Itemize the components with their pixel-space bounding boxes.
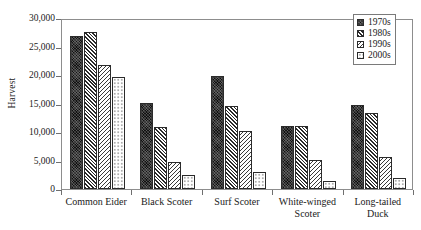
bar-group [70, 20, 125, 189]
legend-item[interactable]: 2000s [357, 50, 391, 61]
bar[interactable] [351, 105, 364, 189]
bar[interactable] [140, 103, 153, 189]
y-tick-label: 30,000 [3, 14, 55, 24]
bar[interactable] [98, 65, 111, 189]
bar[interactable] [365, 113, 378, 189]
bar[interactable] [253, 172, 266, 189]
x-category-label: Surf Scoter [202, 196, 272, 208]
legend-item[interactable]: 1980s [357, 28, 391, 39]
legend-swatch-icon [357, 41, 364, 48]
y-tick-label: 20,000 [3, 71, 55, 81]
y-tick-label: 25,000 [3, 43, 55, 53]
bar[interactable] [239, 131, 252, 189]
legend-item[interactable]: 1970s [357, 17, 391, 28]
legend-label: 2000s [368, 50, 391, 61]
x-tick-mark [131, 190, 132, 195]
legend-swatch-icon [357, 52, 364, 59]
bar[interactable] [154, 127, 167, 189]
bar[interactable] [309, 160, 322, 189]
legend-label: 1970s [368, 17, 391, 28]
bar[interactable] [182, 175, 195, 189]
y-tick-label: 15,000 [3, 100, 55, 110]
y-tick-label: 0 [3, 185, 55, 195]
bar[interactable] [168, 162, 181, 189]
bar[interactable] [379, 157, 392, 189]
legend-item[interactable]: 1990s [357, 39, 391, 50]
bar[interactable] [225, 106, 238, 189]
bar-group [281, 20, 336, 189]
bar-chart-figure: Harvest 05,00010,00015,00020,00025,00030… [0, 0, 421, 230]
bar[interactable] [211, 76, 224, 189]
x-tick-mark [343, 190, 344, 195]
bar[interactable] [84, 32, 97, 189]
x-tick-mark [413, 190, 414, 195]
bar-group [211, 20, 266, 189]
x-category-label: Black Scoter [131, 196, 201, 208]
x-tick-mark [202, 190, 203, 195]
y-tick-label: 10,000 [3, 128, 55, 138]
bar-group [140, 20, 195, 189]
x-category-label: Common Eider [61, 196, 131, 208]
bar[interactable] [295, 126, 308, 189]
bar[interactable] [323, 181, 336, 189]
legend-label: 1990s [368, 39, 391, 50]
x-category-label: Long-tailed Duck [343, 196, 413, 220]
x-tick-mark [272, 190, 273, 195]
legend-swatch-icon [357, 19, 364, 26]
legend-swatch-icon [357, 30, 364, 37]
x-tick-mark [61, 190, 62, 195]
bar[interactable] [70, 36, 83, 189]
bar[interactable] [281, 126, 294, 189]
bar[interactable] [112, 77, 125, 189]
bar[interactable] [393, 178, 406, 189]
x-category-label: White-winged Scoter [272, 196, 342, 220]
y-tick-label: 5,000 [3, 157, 55, 167]
legend-label: 1980s [368, 28, 391, 39]
legend[interactable]: 1970s1980s1990s2000s [353, 14, 396, 65]
